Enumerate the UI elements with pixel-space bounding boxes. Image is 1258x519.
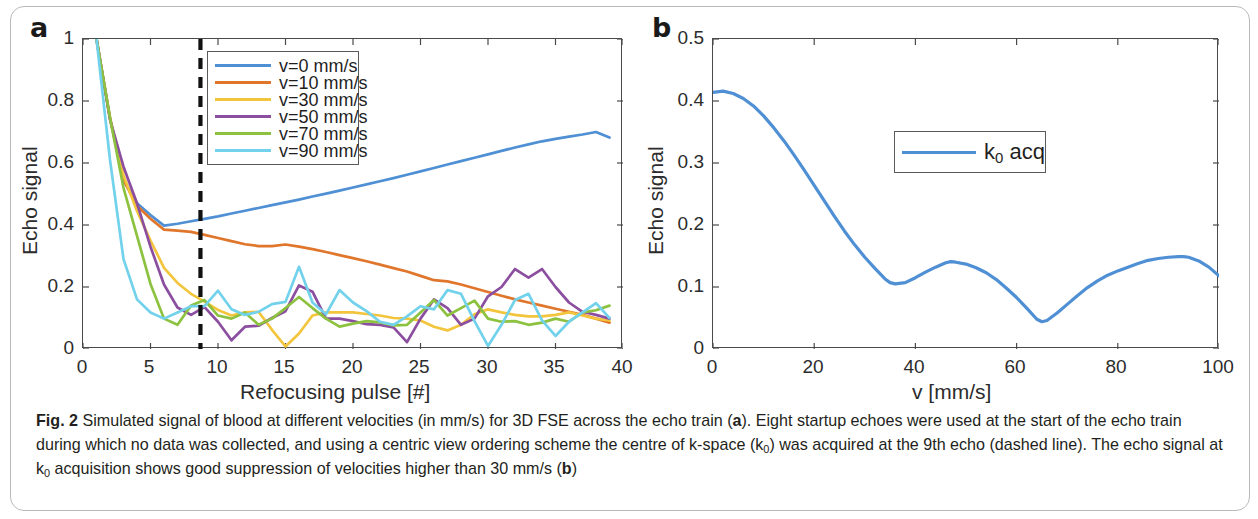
panel-a-legend: v=0 mm/s v=10 mm/s v=30 mm/s v=50 mm/s v… [207,51,359,165]
panel-a-xaxis-title: Refocusing pulse [#] [240,380,430,404]
legend-item-k0acq: k0 acq [902,137,1036,167]
legend-label-v50: v=50 mm/s [279,108,368,126]
panel-b-ytick-0p1: 0.1 [648,275,704,297]
panel-b-xtick-60: 60 [1004,356,1025,378]
panel-a-ytick-1: 1 [22,27,74,49]
panel-b-yaxis-title: Echo signal [644,146,668,255]
legend-label-v0: v=0 mm/s [279,57,358,75]
legend-item-v10: v=10 mm/s [215,74,349,91]
legend-swatch-v10 [215,81,271,84]
panel-a-ytick-0p2: 0.2 [22,275,74,297]
panel-a-yaxis-title: Echo signal [18,146,42,255]
panel-a-xtick-10: 10 [206,356,227,378]
figure-caption: Fig. 2 Simulated signal of blood at diff… [36,409,1224,480]
panel-b-xtick-80: 80 [1105,356,1126,378]
panel-b-xaxis-title: v [mm/s] [912,380,991,404]
panel-a-xtick-35: 35 [543,356,564,378]
legend-swatch-v0 [215,64,271,67]
legend-swatch-k0acq [902,151,976,154]
panel-a-xtick-25: 25 [408,356,429,378]
panel-b-ytick-0p4: 0.4 [648,89,704,111]
panel-b-xtick-20: 20 [802,356,823,378]
legend-label-k0acq-sub: 0 [995,149,1003,166]
panel-a-ytick-0: 0 [22,337,74,359]
legend-item-v30: v=30 mm/s [215,91,349,108]
panel-a-xtick-40: 40 [611,356,632,378]
panel-b-xtick-0: 0 [707,356,718,378]
panel-b-axes [712,38,1218,348]
panel-a-xtick-5: 5 [144,356,155,378]
panel-b-ytick-0p5: 0.5 [648,27,704,49]
panel-a-xtick-30: 30 [476,356,497,378]
legend-label-k0acq: k0 acq [984,141,1045,163]
panel-b-ytick-0: 0 [648,337,704,359]
legend-item-v70: v=70 mm/s [215,125,349,142]
legend-label-v90: v=90 mm/s [279,142,368,160]
legend-swatch-v50 [215,115,271,118]
caption-figure-number: Fig. 2 [36,411,78,429]
panel-a-xtick-15: 15 [273,356,294,378]
legend-label-k0acq-tail: acq [1003,139,1045,164]
legend-item-v50: v=50 mm/s [215,108,349,125]
legend-label-k0acq-main: k [984,139,995,164]
legend-item-v90: v=90 mm/s [215,142,349,159]
panel-a-xtick-0: 0 [77,356,88,378]
panel-b-legend: k0 acq [894,131,1046,173]
legend-label-v10: v=10 mm/s [279,74,368,92]
panel-b-xtick-40: 40 [903,356,924,378]
plot-area: a v=0 mm/s v=10 mm/s v=30 mm/s v=50 mm/s [0,0,1258,400]
legend-label-v30: v=30 mm/s [279,91,368,109]
legend-swatch-v70 [215,132,271,135]
legend-item-v0: v=0 mm/s [215,57,349,74]
legend-swatch-v90 [215,149,271,152]
figure-root: a v=0 mm/s v=10 mm/s v=30 mm/s v=50 mm/s [0,0,1258,519]
panel-a-ytick-0p8: 0.8 [22,89,74,111]
legend-label-v70: v=70 mm/s [279,125,368,143]
panel-b-plot-svg [713,39,1219,349]
panel-b-xtick-100: 100 [1202,356,1234,378]
legend-swatch-v30 [215,98,271,101]
caption-body: Simulated signal of blood at different v… [36,411,1223,477]
panel-a-xtick-20: 20 [341,356,362,378]
